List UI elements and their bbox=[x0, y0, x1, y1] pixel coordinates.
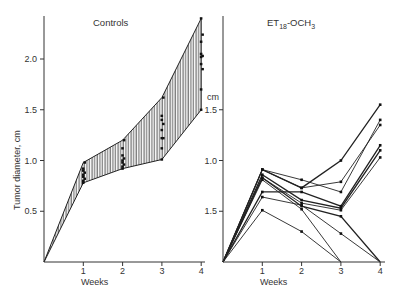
treated-data-point bbox=[340, 232, 343, 235]
controls-data-point bbox=[82, 167, 85, 169]
treated-data-point bbox=[340, 205, 343, 208]
treated-data-point bbox=[379, 124, 382, 127]
et18-och3-x-ticks: 1234 bbox=[260, 262, 383, 276]
controls-data-point bbox=[200, 41, 203, 43]
treated-data-point bbox=[261, 191, 264, 194]
et18-och3-y-ticks: 1.51.01.5 bbox=[204, 105, 223, 217]
treated-data-point bbox=[340, 215, 343, 218]
y-tick-label: 1.0 bbox=[204, 156, 217, 166]
treated-data-point bbox=[379, 149, 382, 152]
treated-data-point bbox=[340, 181, 343, 184]
controls-data-point bbox=[200, 63, 203, 65]
controls-data-point bbox=[123, 139, 126, 141]
y-tick-label: 1.5 bbox=[24, 105, 37, 115]
controls-data-point bbox=[201, 33, 204, 35]
controls-data-point bbox=[161, 158, 164, 160]
chart-figure: 0.51.01.52.0 1234 Controls Weeks Tumor d… bbox=[0, 0, 402, 299]
controls-data-point bbox=[162, 96, 165, 98]
controls-title: Controls bbox=[93, 17, 129, 28]
treated-data-point bbox=[261, 209, 264, 212]
treated-data-point bbox=[300, 230, 303, 233]
treated-data-point bbox=[379, 119, 382, 122]
x-tick-label: 2 bbox=[120, 266, 125, 276]
controls-data-point bbox=[200, 17, 203, 19]
x-tick-label: 2 bbox=[299, 266, 304, 276]
treated-data-point bbox=[300, 199, 303, 202]
controls-range-band bbox=[44, 18, 201, 262]
controls-data-point bbox=[83, 161, 86, 163]
treated-data-point bbox=[379, 156, 382, 159]
controls-data-point bbox=[201, 68, 204, 70]
treated-data-point bbox=[261, 173, 264, 176]
et18-och3-lines bbox=[223, 103, 382, 262]
controls-data-point bbox=[121, 147, 124, 149]
treated-data-point bbox=[300, 178, 303, 181]
y-tick-label: 0.5 bbox=[24, 206, 37, 216]
treated-animal-line bbox=[223, 125, 380, 262]
controls-data-point bbox=[200, 109, 203, 111]
controls-x-label: Weeks bbox=[81, 277, 109, 287]
controls-panel: 0.51.01.52.0 1234 Controls Weeks Tumor d… bbox=[12, 16, 205, 287]
y-tick-label: 1.5 bbox=[204, 105, 217, 115]
treated-animal-line bbox=[223, 105, 380, 262]
treated-data-point bbox=[379, 144, 382, 147]
controls-hatched-band bbox=[44, 18, 201, 262]
treated-data-point bbox=[300, 208, 303, 211]
controls-data-point bbox=[161, 129, 164, 131]
x-tick-label: 3 bbox=[159, 266, 164, 276]
treated-data-point bbox=[261, 196, 264, 199]
controls-data-point bbox=[161, 147, 164, 149]
controls-data-point bbox=[200, 88, 203, 90]
controls-data-point bbox=[161, 115, 164, 117]
et18-och3-panel: 1.51.01.5 1234 ET18-OCH3 Weeks cm bbox=[204, 16, 385, 287]
y-tick-label: 2.0 bbox=[24, 54, 37, 64]
et18-och3-unit-label: cm bbox=[207, 92, 219, 102]
x-tick-label: 3 bbox=[338, 266, 343, 276]
x-tick-label: 4 bbox=[199, 266, 204, 276]
et18-och3-title: ET18-OCH3 bbox=[267, 17, 315, 30]
controls-x-ticks: 1234 bbox=[81, 262, 204, 276]
y-tick-label: 1.5 bbox=[204, 206, 217, 216]
treated-data-point bbox=[340, 209, 343, 212]
treated-data-point bbox=[300, 205, 303, 208]
x-tick-label: 1 bbox=[81, 266, 86, 276]
treated-animal-line bbox=[223, 210, 341, 262]
controls-data-point bbox=[162, 123, 165, 125]
treated-data-point bbox=[300, 187, 303, 190]
y-tick-label: 1.0 bbox=[24, 156, 37, 166]
treated-data-point bbox=[261, 168, 264, 171]
controls-data-point bbox=[121, 154, 124, 156]
treated-data-point bbox=[300, 191, 303, 194]
controls-data-point bbox=[200, 53, 203, 55]
controls-y-ticks: 0.51.01.52.0 bbox=[24, 54, 44, 216]
controls-data-point bbox=[161, 137, 164, 139]
et18-och3-x-label: Weeks bbox=[260, 277, 288, 287]
treated-data-point bbox=[261, 176, 264, 179]
treated-data-point bbox=[340, 159, 343, 162]
controls-data-point bbox=[161, 119, 164, 121]
treated-data-point bbox=[340, 191, 343, 194]
x-tick-label: 4 bbox=[378, 266, 383, 276]
controls-y-label: Tumor diameter, cm bbox=[12, 130, 22, 210]
x-tick-label: 1 bbox=[260, 266, 265, 276]
treated-data-point bbox=[379, 103, 382, 106]
controls-data-point bbox=[123, 157, 126, 159]
